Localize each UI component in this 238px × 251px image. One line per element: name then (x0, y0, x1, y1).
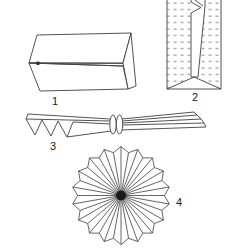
tie-ring-right (116, 115, 122, 134)
step-1-label: 1 (48, 95, 62, 107)
step-2-label: 2 (188, 91, 202, 103)
fan-right-sheets (120, 112, 206, 130)
bag-front-face (29, 63, 128, 91)
step-3-label: 3 (46, 140, 60, 152)
fan-left-bottom-edge (67, 122, 111, 137)
craft-steps-diagram: 1 2 3 4 (0, 0, 238, 251)
tie-ring-left (110, 115, 116, 134)
fan-pleat-zigzag (26, 119, 73, 137)
tied-fan-illustration (10, 105, 210, 147)
bag-opening-tab (37, 62, 40, 65)
rosette-center-dot (116, 191, 126, 201)
dotted-bag-illustration (165, 0, 227, 92)
flattened-bag-illustration (25, 30, 140, 95)
bag-top-face (29, 33, 131, 63)
fan-left-sheets (26, 114, 110, 121)
step-4-label: 4 (172, 196, 186, 208)
rosette-illustration (69, 143, 175, 249)
